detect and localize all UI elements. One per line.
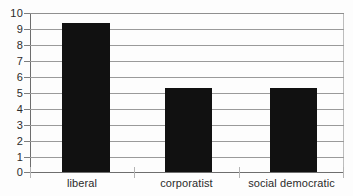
x-axis-tick-label-liberal: liberal	[30, 176, 134, 190]
x-axis-tick-label-social-democratic: social democratic	[239, 176, 344, 190]
y-axis-tick-label: 7	[6, 56, 23, 67]
bar-corporatist[interactable]	[165, 88, 212, 172]
bar-liberal[interactable]	[62, 23, 110, 172]
y-axis-tick-label: 0	[6, 167, 23, 178]
x-axis-line	[30, 172, 344, 173]
bar-chart: 10 9 8 7 6 5 4 3 2 1 0	[0, 0, 353, 196]
x-axis-tick-labels: liberal corporatist social democratic	[30, 176, 344, 194]
y-axis-tick-label: 4	[6, 104, 23, 115]
y-axis-tick-label: 8	[6, 40, 23, 51]
y-axis-tick-label: 9	[6, 24, 23, 35]
y-axis-tick-labels: 10 9 8 7 6 5 4 3 2 1 0	[6, 0, 23, 196]
y-axis-tick-label: 6	[6, 72, 23, 83]
x-axis-tick-label-corporatist: corporatist	[134, 176, 239, 190]
y-axis-tick-label: 5	[6, 88, 23, 99]
bar-social-democratic[interactable]	[270, 88, 317, 172]
y-axis-tick-label: 3	[6, 120, 23, 131]
y-axis-tick-label: 2	[6, 136, 23, 147]
gridline-10	[30, 13, 344, 14]
y-axis-tick-label: 1	[6, 152, 23, 163]
y-axis-tick-label: 10	[6, 8, 23, 19]
plot-area	[30, 13, 344, 173]
